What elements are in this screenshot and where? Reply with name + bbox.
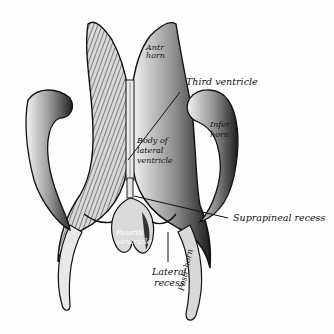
label-anterior-horn: Antr horn bbox=[146, 44, 165, 60]
label-third-ventricle: Third ventricle bbox=[186, 77, 258, 87]
label-body-lateral-ventricle: Body of lateral ventricle bbox=[137, 136, 173, 166]
left-inferior-horn bbox=[26, 90, 72, 230]
label-inferior-horn: Infer horn bbox=[210, 120, 230, 140]
anatomy-figure: Antr horn Third ventricle Body of latera… bbox=[0, 0, 334, 334]
label-suprapineal-recess: Suprapineal recess bbox=[233, 213, 325, 223]
label-fourth-ventricle: Fourth ventricle bbox=[116, 228, 152, 246]
